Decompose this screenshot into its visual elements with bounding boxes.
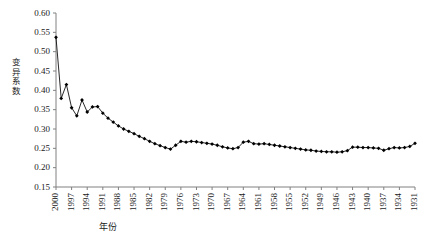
data-point <box>387 147 391 151</box>
data-point <box>54 35 58 39</box>
data-point <box>267 143 271 147</box>
y-tick-label: 0.55 <box>34 27 50 37</box>
data-point <box>184 140 188 144</box>
y-tick-label: 0.60 <box>34 8 50 18</box>
data-point <box>153 142 157 146</box>
x-axis: 2000199719941991198819851982197919761973… <box>50 187 419 211</box>
data-point <box>195 140 199 144</box>
data-point <box>221 145 225 149</box>
x-tick-label: 1967 <box>222 193 232 212</box>
data-point <box>205 141 209 145</box>
x-tick-label: 1976 <box>175 193 185 212</box>
x-tick-label: 2000 <box>50 193 60 212</box>
data-point <box>127 129 131 133</box>
x-tick-label: 1994 <box>81 193 91 212</box>
data-point <box>377 146 381 150</box>
data-point <box>132 132 136 136</box>
data-point <box>59 97 63 101</box>
x-tick-label: 1946 <box>331 193 341 212</box>
data-point <box>288 146 292 150</box>
y-tick-label: 0.35 <box>34 104 50 114</box>
data-point <box>273 143 277 147</box>
data-point <box>413 141 417 145</box>
data-point <box>371 146 375 150</box>
x-tick-label: 1961 <box>253 193 263 211</box>
data-point <box>148 139 152 143</box>
y-tick-group: 0.600.550.500.450.400.350.300.250.200.15 <box>34 8 56 192</box>
x-tick-label: 1973 <box>191 193 201 212</box>
y-tick-label: 0.15 <box>34 182 50 192</box>
data-point <box>319 150 323 154</box>
data-point <box>330 150 334 154</box>
line-chart: 0.600.550.500.450.400.350.300.250.200.15… <box>0 0 431 240</box>
x-tick-label: 1937 <box>378 193 388 212</box>
data-point <box>65 83 69 87</box>
data-point <box>257 142 261 146</box>
data-point <box>200 141 204 145</box>
x-tick-group: 2000199719941991198819851982197919761973… <box>50 187 419 211</box>
data-point <box>226 146 230 150</box>
data-point <box>403 146 407 150</box>
data-point <box>335 150 339 154</box>
data-point <box>189 139 193 143</box>
figure-container: 变异系数 0.600.550.500.450.400.350.300.250.2… <box>0 0 431 240</box>
data-point <box>325 150 329 154</box>
data-point <box>304 148 308 152</box>
data-point <box>210 142 214 146</box>
x-axis-title: 年份 <box>99 221 117 232</box>
data-point <box>283 145 287 149</box>
y-tick-label: 0.20 <box>34 162 50 172</box>
data-point <box>382 148 386 152</box>
data-point <box>158 144 162 148</box>
y-tick-label: 0.50 <box>34 46 50 56</box>
data-point <box>314 149 318 153</box>
data-series <box>54 35 417 154</box>
data-point <box>356 145 360 149</box>
x-tick-label: 1955 <box>284 193 294 212</box>
data-point <box>361 146 365 150</box>
data-point <box>392 146 396 150</box>
data-point <box>247 139 251 143</box>
x-tick-label: 1958 <box>269 193 279 212</box>
x-tick-label: 1949 <box>315 193 325 212</box>
data-point <box>137 134 141 138</box>
y-tick-label: 0.40 <box>34 85 50 95</box>
x-tick-label: 1979 <box>159 193 169 212</box>
x-tick-label: 1982 <box>144 193 154 211</box>
x-tick-label: 1943 <box>347 193 357 212</box>
data-point <box>397 146 401 150</box>
data-point <box>143 137 147 141</box>
data-point <box>252 142 256 146</box>
y-tick-label: 0.30 <box>34 124 50 134</box>
data-point <box>299 147 303 151</box>
x-tick-label: 1985 <box>128 193 138 212</box>
data-point <box>215 143 219 147</box>
y-axis: 0.600.550.500.450.400.350.300.250.200.15 <box>34 8 56 192</box>
data-point <box>408 145 412 149</box>
x-tick-label: 1988 <box>112 193 122 212</box>
data-point <box>163 146 167 150</box>
data-point <box>122 127 126 131</box>
x-tick-label: 1931 <box>409 193 419 211</box>
x-tick-label: 1991 <box>97 193 107 211</box>
y-tick-label: 0.25 <box>34 143 50 153</box>
x-tick-label: 1970 <box>206 193 216 212</box>
data-point <box>278 144 282 148</box>
data-point <box>80 98 84 102</box>
data-point <box>293 146 297 150</box>
data-point <box>340 150 344 154</box>
x-tick-label: 1997 <box>66 193 76 212</box>
data-point <box>309 148 313 152</box>
x-tick-label: 1964 <box>237 193 247 212</box>
x-tick-label: 1940 <box>362 193 372 212</box>
x-tick-label: 1952 <box>300 193 310 211</box>
series-markers <box>54 35 417 154</box>
data-point <box>231 147 235 151</box>
data-point <box>366 146 370 150</box>
y-tick-label: 0.45 <box>34 66 50 76</box>
series-line <box>56 37 415 152</box>
data-point <box>262 142 266 146</box>
x-tick-label: 1934 <box>393 193 403 212</box>
